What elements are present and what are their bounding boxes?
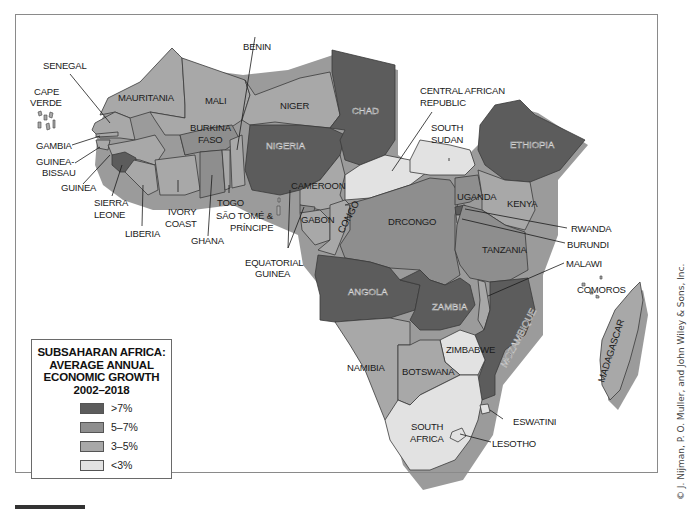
label-south-sudan-2: SUDAN: [431, 134, 464, 145]
legend-title-line-4: 2002–2018: [32, 384, 171, 397]
swatch-5-7: [80, 422, 104, 433]
legend: SUBSAHARAN AFRICA: AVERAGE ANNUAL ECONOM…: [31, 339, 172, 479]
label-lesotho: LESOTHO: [492, 438, 536, 449]
country-eswatini[interactable]: [480, 404, 490, 414]
swatch-3-5: [80, 441, 104, 452]
label-ethiopia: ETHIOPIA: [510, 139, 555, 150]
label-equatorial-guinea-2: GUINEA: [255, 268, 291, 279]
legend-item-3-5: 3–5%: [80, 440, 138, 452]
label-cape-verde: CAPE: [34, 86, 59, 97]
label-zimbabwe: ZIMBABWE: [446, 344, 495, 355]
label-mali: MALI: [205, 95, 226, 106]
label-burundi: BURUNDI: [567, 239, 609, 250]
legend-label-lt3: <3%: [111, 459, 132, 471]
label-liberia: LIBERIA: [125, 228, 161, 239]
swatch-lt3: [80, 460, 104, 471]
label-guinea-bissau-2: BISSAU: [42, 167, 76, 178]
label-botswana: BOTSWANA: [402, 366, 455, 377]
label-cape-verde-2: VERDE: [30, 97, 62, 108]
label-angola: ANGOLA: [348, 286, 388, 297]
label-benin: BENIN: [243, 41, 271, 52]
legend-title: SUBSAHARAN AFRICA: AVERAGE ANNUAL ECONOM…: [32, 346, 171, 396]
label-car-2: REPUBLIC: [420, 97, 466, 108]
figure-tab-bar: [15, 505, 85, 509]
label-ivory-coast-2: COAST: [165, 218, 197, 229]
label-ivory-coast: IVORY: [168, 206, 197, 217]
label-gambia: GAMBIA: [36, 140, 73, 151]
label-eswatini: ESWATINI: [513, 416, 556, 427]
label-car: CENTRAL AFRICAN: [420, 85, 505, 96]
country-mauritania[interactable]: [100, 48, 185, 118]
label-rwanda: RWANDA: [571, 223, 612, 234]
swatch-gt7: [80, 403, 104, 414]
label-sao-tome: SÃO TOMÉ &: [216, 210, 274, 221]
country-south-sudan[interactable]: [410, 140, 475, 175]
legend-label-gt7: >7%: [111, 402, 132, 414]
legend-item-gt7: >7%: [80, 402, 132, 414]
label-sierra-leone: SIERRA: [94, 197, 129, 208]
label-guinea-bissau: GUINEA-: [36, 156, 74, 167]
label-nigeria: NIGERIA: [266, 140, 306, 151]
label-niger: NIGER: [280, 100, 309, 111]
label-drcongo: DRCONGO: [388, 216, 436, 227]
label-namibia: NAMIBIA: [347, 362, 386, 373]
country-ivory-coast[interactable]: [155, 155, 200, 195]
label-gabon: GABON: [301, 214, 335, 225]
label-comoros: COMOROS: [577, 284, 626, 295]
country-benin[interactable]: [230, 135, 245, 188]
label-uganda: UGANDA: [457, 191, 497, 202]
label-guinea: GUINEA: [61, 182, 97, 193]
legend-title-line-1: SUBSAHARAN AFRICA:: [32, 346, 171, 359]
copyright-credit: © J. Nijman, P. O. Muller, and John Wile…: [676, 264, 686, 500]
label-south-africa: SOUTH: [411, 421, 444, 432]
legend-item-5-7: 5–7%: [80, 421, 138, 433]
label-south-africa-2: AFRICA: [410, 433, 445, 444]
label-kenya: KENYA: [507, 198, 538, 209]
legend-title-line-3: ECONOMIC GROWTH: [32, 371, 171, 384]
label-sao-tome-2: PRÍNCIPE: [230, 222, 273, 233]
legend-label-3-5: 3–5%: [111, 440, 138, 452]
label-zambia: ZAMBIA: [432, 301, 468, 312]
label-south-sudan: SOUTH: [431, 122, 464, 133]
label-mauritania: MAURITANIA: [118, 92, 175, 103]
legend-title-line-2: AVERAGE ANNUAL: [32, 359, 171, 372]
label-ghana: GHANA: [191, 235, 225, 246]
country-ghana[interactable]: [200, 150, 225, 198]
country-cape-verde[interactable]: [38, 111, 55, 130]
label-equatorial-guinea: EQUATORIAL: [245, 257, 303, 268]
label-tanzania: TANZANIA: [482, 244, 528, 255]
label-cameroon: CAMEROON: [291, 180, 346, 191]
label-sierra-leone-2: LEONE: [94, 209, 125, 220]
label-senegal: SENEGAL: [43, 60, 86, 71]
legend-item-lt3: <3%: [80, 459, 132, 471]
legend-label-5-7: 5–7%: [111, 421, 138, 433]
label-burkina-faso-2: FASO: [198, 134, 223, 145]
label-malawi: MALAWI: [566, 258, 602, 269]
label-chad: CHAD: [352, 105, 379, 116]
label-togo: TOGO: [217, 197, 244, 208]
label-burkina-faso: BURKINA: [190, 122, 232, 133]
